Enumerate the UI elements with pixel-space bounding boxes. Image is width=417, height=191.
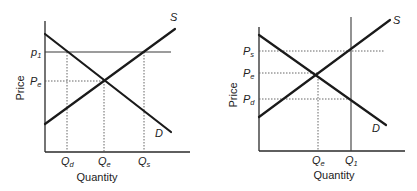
right-ps-label: Ps [243,45,254,59]
right-demand-label: D [372,122,380,134]
left-qs-label: Qs [138,155,151,169]
left-supply-label: S [170,11,178,23]
left-pe-label: Pe [30,75,42,89]
left-demand-curve [45,34,171,132]
left-y-axis-title: Price [14,75,26,100]
left-p1-label: p1 [30,46,41,60]
right-supply-curve [259,20,390,117]
right-y-axis-title: Price [227,82,239,107]
right-diagram: S D Ps Pe Pd Qe Q1 Quantity Price [227,14,405,181]
left-demand-label: D [155,127,163,139]
left-supply-curve [45,29,175,124]
right-x-axis-title: Quantity [314,169,355,181]
left-qd-label: Qd [61,155,75,169]
left-qe-label: Qe [98,155,111,169]
right-qe-label: Qe [312,154,325,168]
left-x-axis-title: Quantity [77,171,118,183]
right-supply-label: S [393,14,401,26]
right-pd-label: Pd [243,93,255,107]
right-demand-curve [259,35,386,125]
right-pe-label: Pe [243,67,255,81]
left-diagram: S D p1 Pe Qd Qe Qs Quantity Price [14,11,190,183]
supply-demand-figure: S D p1 Pe Qd Qe Qs Quantity Price S D Ps [0,0,417,191]
right-q1-label: Q1 [345,154,358,168]
